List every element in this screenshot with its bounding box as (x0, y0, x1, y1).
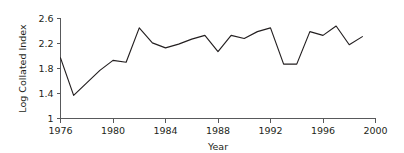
x-tick-label: 1976 (48, 125, 72, 136)
x-axis-tick-labels: 1976198019841988199219962000 (48, 125, 387, 136)
y-axis-tick-labels: 11.41.82.22.6 (38, 13, 53, 124)
chart-canvas: 11.41.82.22.6 19761980198419881992199620… (0, 0, 404, 153)
y-tick-label: 1 (47, 113, 53, 124)
line-chart: 11.41.82.22.6 19761980198419881992199620… (0, 0, 404, 153)
x-tick-label: 1996 (311, 125, 335, 136)
y-tick-label: 2.2 (38, 38, 53, 49)
x-tick-label: 2000 (363, 125, 387, 136)
x-tick-label: 1980 (101, 125, 125, 136)
y-tick-label: 1.8 (38, 63, 53, 74)
y-tick-label: 1.4 (38, 88, 53, 99)
y-tick-label: 2.6 (38, 13, 53, 24)
x-tick-label: 1988 (206, 125, 230, 136)
axis-tick-marks (57, 19, 376, 123)
data-series-line (61, 26, 363, 95)
x-tick-label: 1992 (258, 125, 282, 136)
x-axis-title: Year (207, 141, 228, 152)
y-axis-title: Log Collated Index (17, 24, 28, 113)
x-tick-label: 1984 (153, 125, 177, 136)
